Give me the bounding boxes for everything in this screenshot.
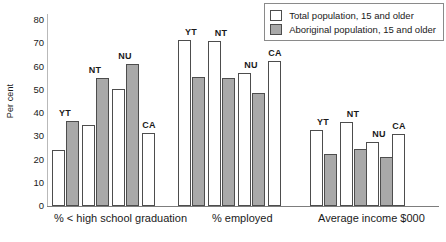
bar-total-population — [52, 150, 65, 206]
y-tick-0: 0 — [20, 201, 44, 211]
y-tick-60: 60 — [20, 62, 44, 72]
y-tick-70: 70 — [20, 38, 44, 48]
bar-total-population — [268, 61, 281, 206]
bar-aboriginal-population — [126, 64, 139, 206]
legend-label-total: Total population, 15 and older — [289, 10, 414, 21]
x-axis-line — [47, 206, 439, 207]
bar-total-population — [310, 130, 323, 206]
bar-total-population — [112, 89, 125, 206]
bar-category-label: NT — [204, 28, 238, 38]
bar-total-population — [178, 40, 191, 206]
bar-total-population — [238, 73, 251, 206]
bar-total-population — [340, 122, 353, 206]
bar-category-label: YT — [306, 117, 340, 127]
bar-category-label: NU — [234, 60, 268, 70]
bar-aboriginal-population — [66, 121, 79, 206]
legend-swatch-total-icon — [270, 10, 282, 21]
bar-category-label: CA — [265, 48, 285, 58]
bar-category-label: NU — [108, 51, 142, 61]
bar-total-population — [142, 133, 155, 206]
bar-aboriginal-population — [96, 78, 109, 206]
legend-item-total: Total population, 15 and older — [270, 8, 436, 22]
bar-total-population — [392, 134, 405, 206]
y-tick-20: 20 — [20, 155, 44, 165]
bar-category-label: CA — [389, 121, 409, 131]
y-tick-10: 10 — [20, 178, 44, 188]
plot-area: YTNTNUCAYTNTNUCAYTNTNUCA — [48, 14, 440, 206]
bar-aboriginal-population — [252, 93, 265, 206]
bar-category-label: CA — [139, 120, 159, 130]
bar-category-label: NT — [336, 109, 370, 119]
group-caption-employed: % employed — [212, 212, 273, 224]
bar-aboriginal-population — [192, 77, 205, 206]
bar-category-label: NT — [78, 65, 112, 75]
bar-total-population — [208, 41, 221, 206]
bar-aboriginal-population — [324, 154, 337, 206]
y-axis-title: Per cent — [5, 69, 15, 133]
y-tick-30: 30 — [20, 131, 44, 141]
legend: Total population, 15 and older Aborigina… — [264, 3, 444, 41]
group-caption-income: Average income $000 — [318, 212, 425, 224]
bar-total-population — [366, 142, 379, 206]
bar-chart: Per cent 80 70 60 50 40 30 20 10 0 YTNTN… — [0, 0, 446, 242]
legend-swatch-aboriginal-icon — [270, 24, 282, 35]
y-tick-80: 80 — [20, 15, 44, 25]
y-tick-40: 40 — [20, 108, 44, 118]
y-tick-50: 50 — [20, 85, 44, 95]
legend-label-aboriginal: Aboriginal population, 15 and older — [289, 24, 436, 35]
bar-aboriginal-population — [222, 78, 235, 206]
bar-total-population — [82, 125, 95, 206]
group-caption-high-school: % < high school graduation — [54, 212, 187, 224]
legend-item-aboriginal: Aboriginal population, 15 and older — [270, 22, 436, 36]
bar-category-label: YT — [174, 27, 208, 37]
bar-category-label: YT — [48, 108, 82, 118]
